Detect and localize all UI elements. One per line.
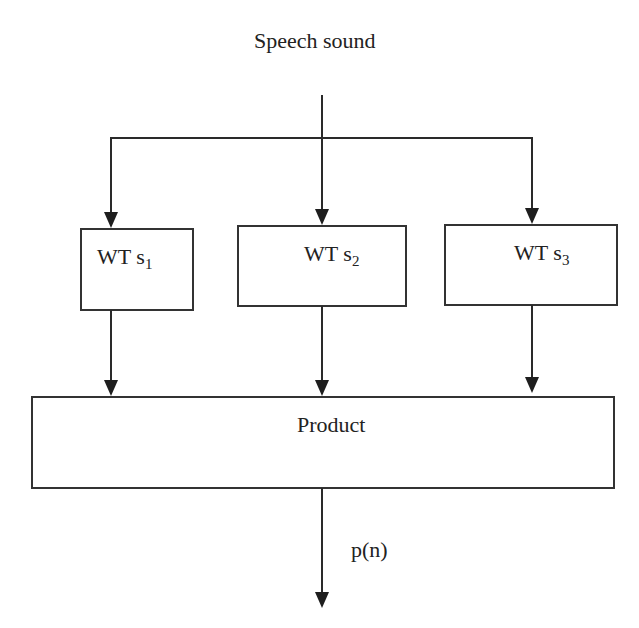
arrow-down-icon xyxy=(525,377,539,393)
input-trunk-line xyxy=(321,95,323,139)
product-combiner-block: Product xyxy=(31,396,615,489)
input-label: Speech sound xyxy=(254,28,376,54)
output-line xyxy=(321,488,323,594)
branch-line-1 xyxy=(110,137,112,215)
wavelet-transform-block-1: WT s1 xyxy=(80,228,194,311)
arrow-down-icon xyxy=(104,212,118,228)
branch-line-3 xyxy=(531,137,533,211)
block-2-output-line xyxy=(321,306,323,380)
block-3-output-line xyxy=(531,305,533,377)
output-label: p(n) xyxy=(351,537,388,563)
wavelet-transform-block-3: WT s3 xyxy=(444,224,618,306)
branch-line-2 xyxy=(321,137,323,212)
block-label: WT s3 xyxy=(514,240,569,269)
block-label: WT s2 xyxy=(304,241,359,270)
wavelet-transform-block-2: WT s2 xyxy=(237,225,407,307)
arrow-down-icon xyxy=(525,208,539,224)
product-label: Product xyxy=(297,412,365,438)
arrow-down-icon xyxy=(315,592,329,608)
block-1-output-line xyxy=(110,310,112,380)
arrow-down-icon xyxy=(315,209,329,225)
arrow-down-icon xyxy=(315,380,329,396)
block-label: WT s1 xyxy=(97,244,152,273)
arrow-down-icon xyxy=(104,380,118,396)
